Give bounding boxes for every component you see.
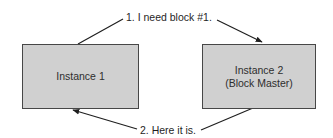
- request-line-left: [78, 19, 123, 44]
- reply-line-right: [201, 108, 253, 130]
- instance-2-box: Instance 2 (Block Master): [202, 44, 316, 109]
- request-arrow-right: [217, 20, 262, 42]
- instance-2-label: Instance 2: [235, 64, 283, 77]
- instance-1-box: Instance 1: [22, 44, 139, 109]
- instance-1-label: Instance 1: [56, 70, 104, 83]
- reply-arrow-left: [73, 110, 137, 129]
- diagram-canvas: Instance 1 Instance 2 (Block Master) 1. …: [0, 0, 333, 138]
- reply-label: 2. Here it is.: [140, 124, 196, 136]
- block-master-label: (Block Master): [225, 77, 293, 90]
- request-label: 1. I need block #1.: [126, 11, 212, 23]
